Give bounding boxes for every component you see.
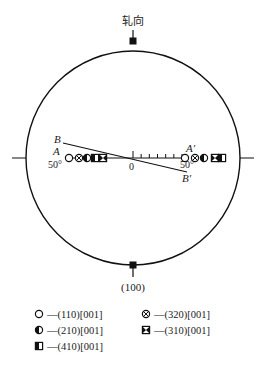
scale-ticks xyxy=(133,151,182,158)
label-b: B xyxy=(54,133,61,145)
label-a-prime: A′ xyxy=(185,142,196,154)
pole-100-label: (100) xyxy=(121,281,145,294)
rolling-direction-label: 轧向 xyxy=(122,14,144,27)
cross-circle-pole xyxy=(191,154,198,161)
bowtie-square-pole xyxy=(99,154,106,161)
bowtie-square-pole xyxy=(211,154,218,161)
half-circle-pole xyxy=(83,154,90,161)
label-b-prime: B′ xyxy=(182,172,192,184)
cross-circle-pole xyxy=(75,154,82,161)
pole-100-marker xyxy=(130,262,137,269)
half-square-pole xyxy=(91,154,98,161)
half-circle-pole xyxy=(200,154,207,161)
open-circle-pole xyxy=(65,154,72,161)
label-left-angle: 50° xyxy=(48,159,62,170)
label-origin: 0 xyxy=(129,161,134,172)
pole-figure: 轧向 (100) B A 50° 0 A′ 50° B′ xyxy=(0,0,266,365)
label-a: A xyxy=(52,145,60,157)
open-circle-pole xyxy=(181,154,188,161)
rolling-direction-marker xyxy=(130,38,137,45)
half-square-pole xyxy=(218,154,225,161)
